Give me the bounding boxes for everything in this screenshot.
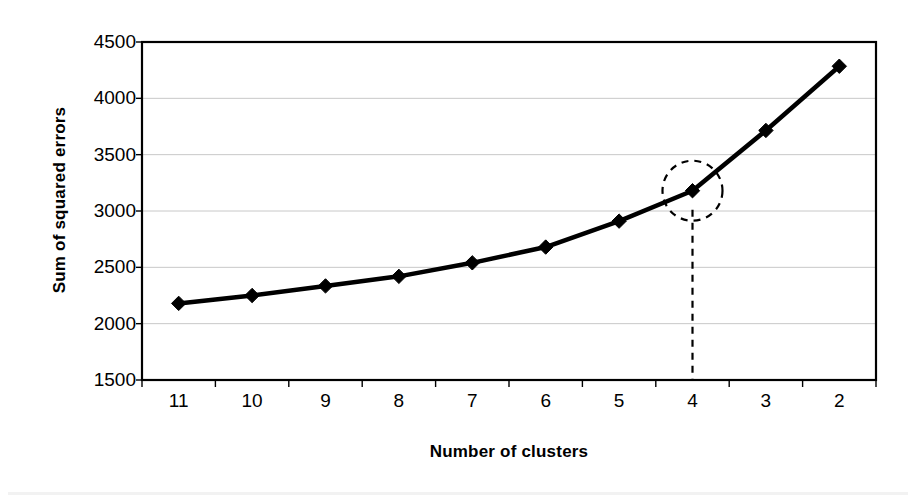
data-point-marker: [539, 240, 553, 254]
data-point-marker: [172, 296, 186, 310]
data-point-marker: [392, 269, 406, 283]
data-point-marker: [245, 288, 259, 302]
data-point-marker: [465, 256, 479, 270]
chart-figure: Sum of squared errors Number of clusters…: [0, 0, 924, 500]
data-point-marker: [318, 279, 332, 293]
axis-ticks: [136, 42, 876, 387]
scan-edge-artifact: [8, 492, 908, 495]
data-point-markers: [172, 59, 847, 311]
data-point-marker: [612, 214, 626, 228]
plot-area: [0, 0, 924, 500]
